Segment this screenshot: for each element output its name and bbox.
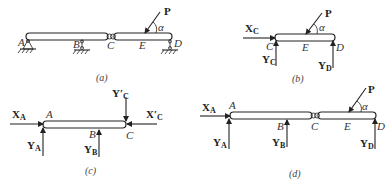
label-yc-prime: Y′C bbox=[112, 87, 129, 101]
caption-b: (b) bbox=[292, 73, 304, 85]
label-d: D bbox=[335, 41, 344, 53]
label-p: P bbox=[164, 5, 171, 17]
label-d: D bbox=[173, 37, 182, 49]
label-yb: YB bbox=[84, 143, 98, 157]
label-c: C bbox=[266, 40, 274, 52]
label-ya: YA bbox=[27, 139, 41, 153]
label-yd: YD bbox=[360, 137, 374, 151]
label-a: A bbox=[17, 36, 25, 48]
beam-ac bbox=[43, 121, 126, 128]
label-e: E bbox=[138, 39, 146, 51]
label-yd: YD bbox=[318, 59, 332, 73]
angle-alpha-arc bbox=[314, 24, 317, 34]
label-a: A bbox=[45, 108, 53, 120]
label-b: B bbox=[277, 120, 284, 132]
label-alpha: α bbox=[319, 21, 325, 33]
caption-d: (d) bbox=[289, 168, 301, 180]
label-alpha: α bbox=[158, 21, 164, 33]
label-a: A bbox=[228, 99, 236, 111]
caption-a: (a) bbox=[96, 72, 108, 84]
panel-b: P α XC YC YD C E D (b) bbox=[243, 7, 344, 85]
label-e: E bbox=[343, 120, 351, 132]
free-body-diagram-figure: P α A B C E D (a) P α XC YC YD C E D (b) bbox=[0, 0, 392, 190]
beam-cd bbox=[318, 112, 376, 119]
panel-d: P α XA YA YB YD A B C E D (d) bbox=[200, 83, 385, 180]
label-p: P bbox=[325, 7, 332, 19]
label-e: E bbox=[301, 41, 309, 53]
label-c: C bbox=[311, 120, 319, 132]
label-xc: XC bbox=[245, 22, 259, 36]
label-c: C bbox=[107, 39, 115, 51]
label-c: C bbox=[126, 129, 134, 141]
panel-a: P α A B C E D (a) bbox=[17, 5, 182, 84]
label-xc-prime: X′C bbox=[146, 108, 163, 122]
label-yc: YC bbox=[262, 53, 276, 67]
angle-alpha-arc bbox=[153, 22, 157, 33]
label-b: B bbox=[89, 128, 96, 140]
beam-ac bbox=[26, 33, 108, 40]
beam-cd bbox=[275, 34, 335, 41]
label-xa: XA bbox=[202, 101, 216, 115]
label-b: B bbox=[73, 38, 80, 50]
caption-c: (c) bbox=[85, 165, 97, 177]
label-d: D bbox=[376, 120, 385, 132]
angle-alpha-arc bbox=[357, 101, 361, 112]
label-ya: YA bbox=[213, 136, 227, 150]
label-xa: XA bbox=[12, 108, 26, 122]
panel-c: XA YA YB Y′C X′C A B C (c) bbox=[10, 87, 163, 177]
label-p: P bbox=[368, 83, 375, 95]
label-alpha: α bbox=[362, 100, 368, 112]
label-yb: YB bbox=[272, 136, 286, 150]
beam-ac bbox=[230, 112, 312, 119]
